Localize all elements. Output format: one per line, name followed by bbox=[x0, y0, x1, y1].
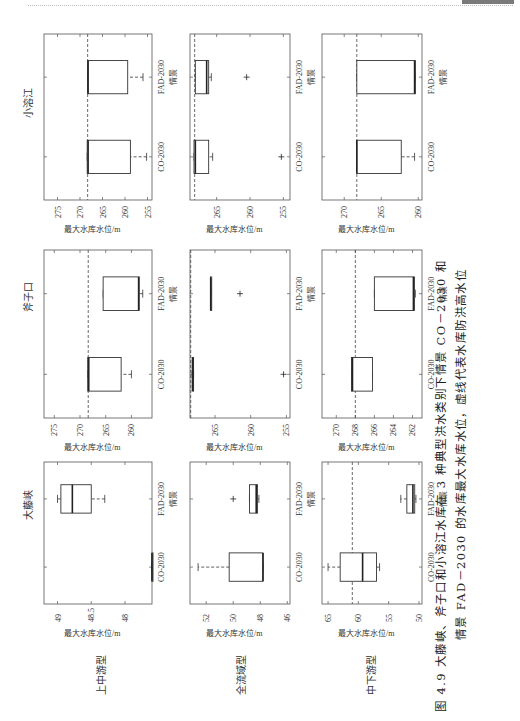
scenario-tick-label: FAD-2030 bbox=[427, 60, 436, 94]
value-tick-label: 55 bbox=[385, 614, 394, 622]
scenario-axis-label: 情景 bbox=[438, 286, 448, 302]
value-tick-label: 60 bbox=[354, 614, 363, 622]
value-tick-label: 265 bbox=[211, 424, 220, 436]
reservoir-title-xiaorongjiang: 小溶江 bbox=[20, 88, 35, 118]
box-co-2030 bbox=[87, 140, 146, 173]
plot-frame bbox=[190, 34, 290, 200]
scenario-tick-label: CO-2030 bbox=[157, 552, 166, 582]
flood-type-label-whole-basin: 全流域型 bbox=[233, 655, 248, 695]
scenario-axis-label: 情景 bbox=[306, 491, 316, 507]
scenario-tick-label: CO-2030 bbox=[157, 359, 166, 389]
value-tick-label: 265 bbox=[213, 206, 222, 218]
value-tick-label: 48.5 bbox=[87, 608, 96, 622]
value-tick-label: 255 bbox=[279, 206, 288, 218]
scenario-tick-label: CO-2030 bbox=[295, 359, 304, 389]
scenario-axis-label: 情景 bbox=[168, 69, 178, 85]
value-axis-label: 最大水库水位/m bbox=[338, 224, 395, 234]
scenario-tick-label: CO-2030 bbox=[295, 552, 304, 582]
scenario-tick-label: CO-2030 bbox=[295, 142, 304, 172]
value-axis-label: 最大水库水位/m bbox=[64, 628, 121, 638]
scenario-axis-label: 情景 bbox=[306, 286, 316, 302]
value-tick-label: 270 bbox=[76, 424, 85, 436]
boxplot-panel: 262264266268270最大水库水位/mCO-2030FAD-2030情景 bbox=[322, 250, 422, 418]
plot-frame bbox=[44, 250, 152, 418]
box-fad-2030 bbox=[103, 277, 143, 311]
value-tick-label: 270 bbox=[332, 424, 341, 436]
flood-type-label-upper-middle: 上中游型 bbox=[93, 655, 108, 695]
box-fad-2030 bbox=[401, 485, 416, 513]
value-tick-label: 50 bbox=[415, 614, 424, 622]
box-fad-2030 bbox=[230, 485, 259, 513]
value-tick-label: 260 bbox=[121, 206, 130, 218]
box-co-2030 bbox=[192, 358, 286, 392]
boxplot-panel: 4848.549最大水库水位/mCO-2030FAD-2030情景 bbox=[44, 462, 152, 604]
scenario-axis-label: 情景 bbox=[168, 286, 178, 302]
value-tick-label: 255 bbox=[144, 206, 153, 218]
box-fad-2030 bbox=[211, 277, 243, 311]
scenario-tick-label: FAD-2030 bbox=[157, 60, 166, 94]
reservoir-title-datengxia: 大藤峡 bbox=[20, 490, 35, 520]
plot-frame bbox=[44, 34, 152, 200]
box-co-2030 bbox=[194, 140, 284, 173]
boxplot-panel: 255260265最大水库水位/mCO-2030FAD-2030情景 bbox=[190, 34, 290, 200]
value-tick-label: 255 bbox=[282, 424, 291, 436]
value-tick-label: 46 bbox=[283, 614, 292, 622]
plot-frame bbox=[322, 34, 422, 200]
scenario-axis-label: 情景 bbox=[306, 69, 316, 85]
scenario-tick-label: FAD-2030 bbox=[295, 60, 304, 94]
value-axis-label: 最大水库水位/m bbox=[64, 224, 121, 234]
value-tick-label: 49 bbox=[54, 614, 63, 622]
box-co-2030 bbox=[198, 553, 263, 581]
value-tick-label: 65 bbox=[324, 614, 333, 622]
value-tick-label: 265 bbox=[377, 206, 386, 218]
value-tick-label: 52 bbox=[202, 614, 211, 622]
scenario-tick-label: CO-2030 bbox=[427, 142, 436, 172]
value-tick-label: 260 bbox=[414, 206, 423, 218]
value-tick-label: 260 bbox=[246, 206, 255, 218]
scenario-tick-label: FAD-2030 bbox=[427, 277, 436, 311]
page-header-tab bbox=[462, 0, 514, 4]
box-fad-2030 bbox=[374, 277, 415, 311]
plot-frame bbox=[190, 250, 290, 418]
boxplot-panel: 255260265最大水库水位/mCO-2030FAD-2030情景 bbox=[190, 250, 290, 418]
value-axis-label: 最大水库水位/m bbox=[206, 442, 263, 452]
scenario-tick-label: CO-2030 bbox=[427, 552, 436, 582]
value-tick-label: 265 bbox=[102, 424, 111, 436]
value-axis-label: 最大水库水位/m bbox=[338, 628, 395, 638]
value-tick-label: 262 bbox=[408, 424, 417, 436]
plot-frame bbox=[190, 462, 290, 604]
box-co-2030 bbox=[357, 140, 415, 173]
scenario-axis-label: 情景 bbox=[438, 69, 448, 85]
plot-frame bbox=[322, 462, 422, 604]
value-tick-label: 270 bbox=[340, 206, 349, 218]
scenario-tick-label: FAD-2030 bbox=[157, 277, 166, 311]
box-co-2030 bbox=[328, 553, 380, 581]
box-fad-2030 bbox=[195, 61, 249, 94]
boxplot-panel: 260265270最大水库水位/mCO-2030FAD-2030情景 bbox=[322, 34, 422, 200]
scenario-tick-label: FAD-2030 bbox=[157, 482, 166, 516]
reservoir-title-fuzikou: 斧子口 bbox=[20, 282, 35, 312]
value-tick-label: 48 bbox=[121, 614, 130, 622]
box-fad-2030 bbox=[357, 61, 416, 94]
value-tick-label: 260 bbox=[247, 424, 256, 436]
scenario-tick-label: FAD-2030 bbox=[295, 482, 304, 516]
value-tick-label: 265 bbox=[99, 206, 108, 218]
boxplot-panel: 50556065最大水库水位/mCO-2030FAD-2030情景 bbox=[322, 462, 422, 604]
value-axis-label: 最大水库水位/m bbox=[338, 442, 395, 452]
boxplot-panel: 46485052最大水库水位/mCO-2030FAD-2030情景 bbox=[190, 462, 290, 604]
value-tick-label: 268 bbox=[351, 424, 360, 436]
scenario-axis-label: 情景 bbox=[168, 491, 178, 507]
box-fad-2030 bbox=[88, 61, 143, 94]
value-tick-label: 270 bbox=[76, 206, 85, 218]
scenario-tick-label: FAD-2030 bbox=[427, 482, 436, 516]
flood-type-label-middle-lower: 中下游型 bbox=[363, 655, 378, 695]
value-tick-label: 275 bbox=[54, 206, 63, 218]
scenario-tick-label: FAD-2030 bbox=[295, 277, 304, 311]
boxplot-panel: 260265270275最大水库水位/mCO-2030FAD-2030情景 bbox=[44, 250, 152, 418]
value-tick-label: 266 bbox=[370, 424, 379, 436]
scenario-axis-label: 情景 bbox=[438, 491, 448, 507]
plot-frame bbox=[44, 462, 152, 604]
box-co-2030 bbox=[88, 358, 132, 392]
scenario-tick-label: CO-2030 bbox=[427, 359, 436, 389]
value-axis-label: 最大水库水位/m bbox=[206, 224, 263, 234]
